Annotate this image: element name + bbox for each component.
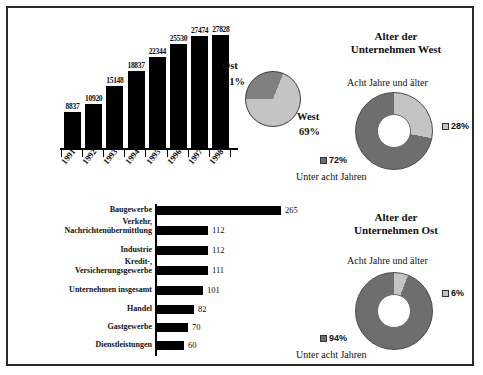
bar-rect: [155, 341, 184, 350]
bar-value-label: 112: [212, 245, 224, 255]
donut-ost-hole: [377, 294, 411, 328]
legend-swatch-dark-west: [320, 157, 327, 164]
category-label: Industrie: [34, 245, 152, 254]
bar-rect: [106, 86, 123, 148]
donut-west-caption-older: Acht Jahre und älter: [347, 77, 428, 88]
donut-west-legend-older: 28%: [442, 121, 469, 131]
category-label: Nachrichtenübermittlung: [34, 226, 152, 235]
pie-label-ost: Ost: [222, 60, 238, 71]
category-label: Versicherungsgewerbe: [34, 266, 152, 275]
bar-rect: [85, 104, 102, 148]
bar-rect: [155, 226, 208, 235]
category-label: Unternehmen insgesamt: [34, 285, 152, 294]
bar-rect: [191, 36, 208, 148]
poster-frame: 883710920151481883722344255302747427828 …: [6, 6, 474, 366]
pie-value-west: 69%: [299, 126, 320, 137]
bar-value-label: 111: [212, 265, 224, 275]
bar-rect: [155, 246, 208, 255]
legend-swatch-light-west: [442, 123, 449, 130]
bar-rect: [170, 44, 187, 148]
bar-rect: [155, 305, 194, 314]
bar-value-label: 60: [188, 340, 197, 350]
category-label: Kredit-,: [34, 257, 152, 266]
donut-west-value-younger: 72%: [329, 155, 347, 165]
legend-swatch-dark-ost: [320, 335, 327, 342]
bar-value-label: 10920: [85, 94, 102, 103]
category-label: Verkehr,: [34, 217, 152, 226]
horizontal-bar-chart: BaugewerbeVerkehr,Nachrichtenübermittlun…: [34, 201, 284, 361]
axis-year-label: 1993: [101, 147, 119, 167]
bar-value-label: 27474: [191, 26, 208, 35]
donut-west-value-older: 28%: [451, 121, 469, 131]
donut-ost-title-line2: Unternehmen Ost: [326, 224, 466, 237]
bar-value-label: 265: [285, 205, 298, 215]
axis-year-label: 1994: [123, 147, 141, 167]
donut-ost-legend-younger: 94%: [320, 333, 347, 343]
axis-year-label: 1991: [59, 147, 77, 167]
category-label: Gastgewerbe: [34, 322, 152, 331]
donut-ost-title-line1: Alter der: [326, 211, 466, 224]
donut-west-caption-younger: Unter acht Jahren: [296, 171, 367, 182]
bar-rect: [155, 206, 281, 215]
donut-west-title-line1: Alter der: [326, 30, 466, 43]
axis-tick: [230, 148, 231, 157]
donut-west-hole: [377, 114, 411, 148]
bar-value-label: 82: [198, 304, 207, 314]
bar-value-label: 70: [192, 322, 201, 332]
bar-value-label: 15148: [106, 76, 123, 85]
category-label: Dienstleistungen: [34, 340, 152, 349]
vertical-bar-chart: 883710920151481883722344255302747427828: [60, 30, 232, 148]
axis-year-label: 1995: [144, 147, 162, 167]
pie-value-ost: 31%: [224, 76, 245, 87]
bar-rect: [64, 112, 81, 148]
bar-value-label: 25530: [170, 34, 187, 43]
axis-year-label: 1998: [207, 147, 225, 167]
bar-value-label: 8837: [66, 102, 80, 111]
donut-ost-caption-younger: Unter acht Jahren: [296, 349, 367, 360]
category-label: Handel: [34, 304, 152, 313]
legend-swatch-light-ost: [442, 290, 449, 297]
bar-value-label: 112: [212, 225, 224, 235]
bar-value-label: 18837: [127, 61, 144, 70]
donut-chart-west: [355, 92, 433, 170]
donut-west-legend-younger: 72%: [320, 155, 347, 165]
donut-west-title-line2: Unternehmen West: [326, 43, 466, 56]
pie-label-west: West: [297, 111, 319, 122]
bar-rect: [155, 286, 203, 295]
category-label: Baugewerbe: [34, 205, 152, 214]
bar-rect: [155, 323, 188, 332]
donut-ost-value-older: 6%: [451, 288, 464, 298]
axis-year-label: 1996: [165, 147, 183, 167]
bar-rect: [212, 35, 229, 148]
axis-year-label: 1997: [186, 147, 204, 167]
bar-rect: [149, 57, 166, 148]
donut-ost-legend-older: 6%: [442, 288, 464, 298]
bar-value-label: 27828: [212, 25, 229, 34]
bar-value-label: 101: [207, 285, 220, 295]
donut-chart-ost: [355, 272, 433, 350]
pie-chart-ost-west: [245, 71, 301, 127]
donut-ost-value-younger: 94%: [329, 333, 347, 343]
bar-rect: [155, 266, 208, 275]
axis-year-label: 1992: [80, 147, 98, 167]
bar-rect: [128, 71, 145, 148]
donut-ost-caption-older: Acht Jahre und älter: [347, 255, 428, 266]
bar-value-label: 22344: [149, 47, 166, 56]
